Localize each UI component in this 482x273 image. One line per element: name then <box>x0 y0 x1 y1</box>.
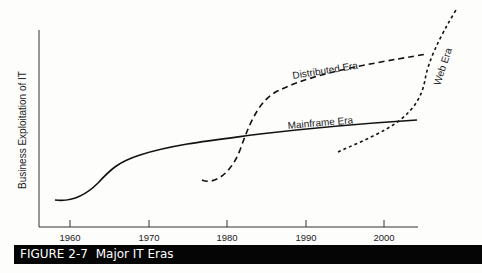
tick-label-1960: 1960 <box>59 232 80 243</box>
chart-plot-area: 1960 1970 1980 1990 2000 Distributed Era… <box>0 0 482 245</box>
y-axis-label: Business Exploitation of IT <box>17 71 28 189</box>
figure-title: Major IT Eras <box>96 247 174 261</box>
figure-caption: FIGURE 2-7 Major IT Eras <box>14 245 482 264</box>
tick-label-1970: 1970 <box>138 232 159 243</box>
mainframe-era-label: Mainframe Era <box>287 114 354 131</box>
tick-label-1980: 1980 <box>216 232 237 243</box>
web-era-label: Web Era <box>431 46 454 87</box>
x-tick-labels: 1960 1970 1980 1990 2000 <box>59 232 394 243</box>
x-ticks <box>70 220 384 227</box>
distributed-era-label: Distributed Era <box>292 60 359 81</box>
tick-label-2000: 2000 <box>373 232 394 243</box>
tick-label-1990: 1990 <box>295 232 316 243</box>
figure-number: FIGURE 2-7 <box>20 247 88 261</box>
